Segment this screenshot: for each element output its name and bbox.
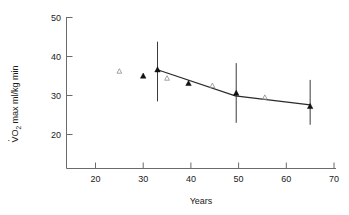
y-tick-label: 20 bbox=[51, 130, 61, 140]
x-tick-label: 70 bbox=[329, 174, 339, 184]
y-axis-title: VO2 max ml/kg min bbox=[9, 65, 22, 142]
x-tick-label: 30 bbox=[138, 174, 148, 184]
y-axis-title-text: VO2 max ml/kg min bbox=[10, 65, 22, 142]
chart-figure: 20304050 203040506070 Years VO2 max ml/k… bbox=[0, 0, 349, 215]
chart-svg: 20304050 203040506070 Years VO2 max ml/k… bbox=[0, 0, 349, 215]
y-tick-label: 30 bbox=[51, 91, 61, 101]
x-tick-label: 40 bbox=[186, 174, 196, 184]
y-axis-title-rest: max ml/kg min bbox=[10, 65, 20, 126]
x-tick-label: 20 bbox=[90, 174, 100, 184]
chart-background bbox=[0, 0, 349, 215]
y-tick-label: 40 bbox=[51, 52, 61, 62]
x-tick-label: 60 bbox=[281, 174, 291, 184]
x-axis-title: Years bbox=[190, 196, 213, 206]
y-tick-label: 50 bbox=[51, 13, 61, 23]
y-axis-title-o: O bbox=[10, 130, 20, 137]
x-tick-label: 50 bbox=[234, 174, 244, 184]
